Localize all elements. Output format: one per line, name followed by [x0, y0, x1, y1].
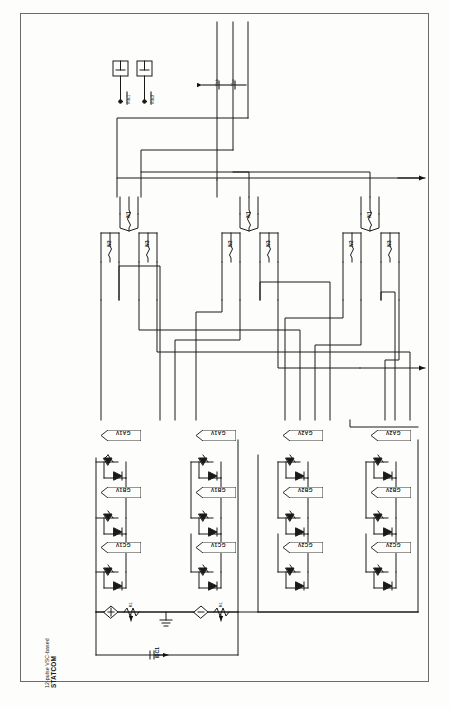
converter-leg-3 [278, 455, 308, 590]
dc-bottom-circuit [96, 606, 418, 659]
converter-leg-4 [366, 455, 396, 590]
winding-label-n1-t1: N1 [126, 211, 131, 217]
valve-cell [191, 565, 221, 590]
valve-cell [96, 565, 126, 590]
valve-cell [278, 511, 308, 536]
valve-cell [96, 511, 126, 536]
ac-bus-lines [217, 22, 248, 180]
converter-leg-2 [191, 455, 221, 590]
secondary-interconnect-harness [101, 266, 410, 420]
gate-label-gc1v-leg1: GC1V [110, 542, 136, 548]
schematic-svg [0, 0, 450, 708]
winding-label-n1-t3: N1 [367, 211, 372, 217]
valve-cell [366, 511, 396, 536]
gate-label-ga1v-leg2: GA1V [205, 430, 231, 436]
gate-label-gc2v-leg3: GC2V [292, 542, 318, 548]
gate-label-gc1v-leg2: GC1V [205, 542, 231, 548]
ground-symbol [160, 612, 172, 626]
winding-label-n2-t2: N2 [228, 240, 233, 246]
dc-source-1 [104, 606, 118, 618]
winding-label-n3-t2: N3 [266, 240, 271, 246]
valve-cell [191, 455, 221, 480]
dc-source-label-vdc2: Vdc2 [150, 95, 155, 105]
valve-cell [278, 455, 308, 480]
gate-label-gb1v-leg2: GB1V [205, 487, 231, 493]
title-block: 12-pulse VSC-based STATCOM [44, 638, 57, 688]
dc-source-label-vdc1: Vdc1 [126, 95, 131, 105]
winding-label-n1-t2: N1 [246, 211, 251, 217]
gate-label-ga1v-leg1: GA1V [110, 430, 136, 436]
gate-label-gb1v-leg1: GB1V [110, 487, 136, 493]
gate-label-gb2v-leg3: GB2V [292, 487, 318, 493]
valve-cell [191, 511, 221, 536]
gate-label-ga2v-leg4: GA2V [380, 430, 406, 436]
converter-bridge-frame [96, 420, 418, 612]
valve-cell [366, 455, 396, 480]
bus-measurement-marks [202, 81, 246, 89]
winding-label-n2-t3: N2 [349, 240, 354, 246]
title-line-2: STATCOM [50, 638, 57, 688]
gate-label-gc2v-leg4: GC2V [380, 542, 406, 548]
hv-bus-runs [117, 118, 419, 197]
valve-cell [366, 565, 396, 590]
winding-label-n3-t3: N3 [387, 240, 392, 246]
converter-leg-1 [96, 455, 126, 590]
resistor-r1-a [124, 608, 139, 621]
resistor-r1-b [214, 608, 229, 621]
bus-measurement-label-vab: Vab [214, 79, 219, 86]
bus-measurement-label-vbc: Vbc [230, 79, 235, 87]
gate-label-ga2v-leg3: GA2V [292, 430, 318, 436]
valve-cell [278, 565, 308, 590]
resistor-label-r1-b: R1 [218, 602, 223, 608]
resistor-label-r1-a: R1 [128, 602, 133, 608]
valve-cell [96, 455, 126, 480]
dc-source-2 [194, 606, 208, 618]
schematic-canvas: GA1V GB1V GC1V GA1V GB1V GC1V GA2V [0, 0, 450, 708]
gate-label-gb2v-leg4: GB2V [380, 487, 406, 493]
winding-label-n3-t1: N3 [145, 240, 150, 246]
dc-current-label-idc1: IDC1 [155, 647, 160, 658]
winding-label-n2-t1: N2 [107, 240, 112, 246]
